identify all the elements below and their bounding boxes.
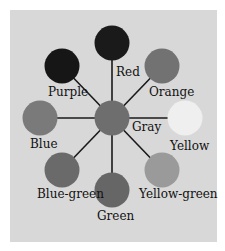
label-yellow-green: Yellow-green	[139, 188, 218, 200]
circle-blue	[23, 101, 58, 136]
circle-red	[95, 26, 130, 61]
circle-gray-center	[95, 101, 130, 136]
circle-yellow	[168, 101, 203, 136]
label-green: Green	[97, 210, 134, 222]
label-orange: Orange	[149, 86, 194, 98]
label-purple: Purple	[48, 86, 88, 98]
label-blue-green: Blue-green	[37, 188, 104, 200]
circle-blue-green	[45, 153, 80, 188]
label-blue: Blue	[30, 138, 58, 150]
label-red: Red	[116, 66, 140, 78]
label-gray: Gray	[132, 121, 161, 133]
label-yellow: Yellow	[170, 140, 209, 152]
circle-orange	[145, 49, 180, 84]
circle-yellow-green	[145, 153, 180, 188]
circle-purple	[45, 49, 80, 84]
